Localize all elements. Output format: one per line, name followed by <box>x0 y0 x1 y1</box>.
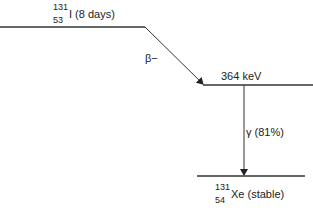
parent-mass-number: 131 <box>53 2 68 12</box>
beta-label: β− <box>145 53 158 64</box>
parent-atomic-number: 53 <box>53 15 63 25</box>
parent-half-life: (8 days) <box>72 8 115 20</box>
excited-level-energy: 364 keV <box>221 71 261 82</box>
daughter-mass-number: 131 <box>215 182 230 192</box>
daughter-atomic-number: 54 <box>215 195 225 205</box>
daughter-symbol: Xe <box>231 188 244 200</box>
gamma-label: γ (81%) <box>246 127 284 138</box>
decay-scheme-graphic <box>0 0 313 213</box>
daughter-stability: (stable) <box>244 188 284 200</box>
